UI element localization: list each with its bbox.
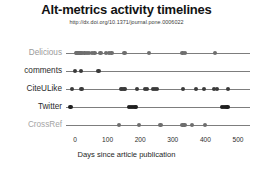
data-point xyxy=(213,51,217,55)
data-point xyxy=(73,69,77,73)
data-point xyxy=(158,123,162,127)
data-point xyxy=(123,87,127,91)
data-point xyxy=(92,51,96,55)
timeline-row-delicious: Delicious xyxy=(0,44,253,62)
timeline-track xyxy=(66,116,250,134)
data-point xyxy=(182,123,186,127)
data-point xyxy=(194,87,198,91)
data-point xyxy=(117,123,121,127)
x-tick-label: 0 xyxy=(73,136,77,143)
data-point xyxy=(109,51,113,55)
timeline-track xyxy=(66,98,250,116)
data-point xyxy=(96,69,100,73)
data-point xyxy=(203,123,207,127)
timeline-row-crossref: CrossRef xyxy=(0,116,253,134)
x-tick-label: 100 xyxy=(102,136,113,143)
data-point xyxy=(137,123,141,127)
data-point xyxy=(79,69,83,73)
x-axis-label: Days since article publication xyxy=(0,150,253,159)
data-point xyxy=(190,123,194,127)
data-point xyxy=(225,105,229,109)
data-point xyxy=(68,105,72,109)
x-tick-label: 300 xyxy=(167,136,178,143)
data-point xyxy=(202,87,206,91)
timeline-row-comments: comments xyxy=(0,62,253,80)
data-point xyxy=(183,51,187,55)
x-tick-label: 400 xyxy=(200,136,211,143)
data-point xyxy=(155,87,159,91)
data-point xyxy=(122,51,126,55)
data-point xyxy=(215,87,219,91)
timeline-track xyxy=(66,62,250,80)
x-tick-label: 200 xyxy=(135,136,146,143)
row-label-crossref: CrossRef xyxy=(0,116,62,134)
data-point xyxy=(79,87,83,91)
row-label-twitter: Twitter xyxy=(0,98,62,116)
data-point xyxy=(134,105,138,109)
timeline-row-citeulike: CiteULike xyxy=(0,80,253,98)
timeline-track xyxy=(66,80,250,98)
data-point xyxy=(98,51,102,55)
row-label-citeulike: CiteULike xyxy=(0,80,62,98)
data-point xyxy=(181,87,185,91)
data-point xyxy=(135,87,139,91)
x-axis-ticks: 0100200300400500 xyxy=(0,136,253,150)
row-label-delicious: Delicious xyxy=(0,44,62,62)
timeline-track xyxy=(66,44,250,62)
data-point xyxy=(70,87,74,91)
data-point xyxy=(147,51,151,55)
data-point xyxy=(226,87,230,91)
timeline-axis-line xyxy=(66,71,250,72)
timeline-row-twitter: Twitter xyxy=(0,98,253,116)
x-tick-label: 500 xyxy=(232,136,243,143)
altmetrics-timeline-figure: Alt-metrics activity timelines http://dx… xyxy=(0,0,253,169)
data-point xyxy=(145,87,149,91)
row-label-comments: comments xyxy=(0,62,62,80)
